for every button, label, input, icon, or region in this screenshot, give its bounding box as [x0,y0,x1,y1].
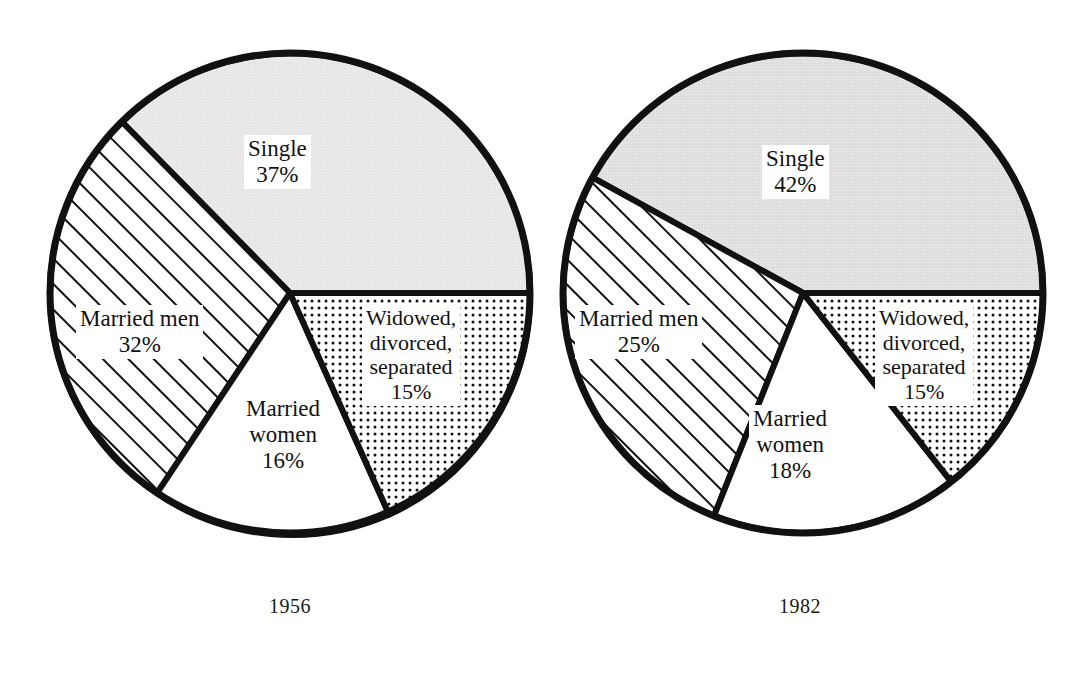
label-widowed-l1-1956: Widowed, [366,306,456,331]
label-married-women-l2-1956: women [246,422,320,448]
label-married-women-value-1982: 18% [753,458,827,484]
label-widowed-1956: Widowed, divorced, separated 15% [362,305,460,406]
label-widowed-l3-1956: separated [366,355,456,380]
label-single-1956: Single 37% [244,135,311,189]
label-married-men-1982: Married men 25% [575,305,702,359]
caption-1982: 1982 [710,595,890,618]
label-married-women-1956: Married women 16% [242,395,324,474]
label-married-women-l1-1956: Married [246,396,320,422]
label-widowed-value-1956: 15% [366,380,456,405]
label-single-value-1982: 42% [766,172,825,198]
label-married-men-value-1956: 32% [80,332,199,358]
label-single-1982: Single 42% [762,145,829,199]
label-married-women-l1-1982: Married [753,406,827,432]
label-widowed-l2-1982: divorced, [879,331,969,356]
pie-chart-1982: Single 42% Married men 25% Married women… [557,47,1049,539]
label-single-value-1956: 37% [248,162,307,188]
label-married-women-value-1956: 16% [246,448,320,474]
label-widowed-l3-1982: separated [879,355,969,380]
label-single-text-1982: Single [766,146,825,172]
label-widowed-value-1982: 15% [879,380,969,405]
label-married-women-1982: Married women 18% [749,405,831,484]
label-widowed-l1-1982: Widowed, [879,306,969,331]
figure-root: Single 37% Married men 32% Married women… [0,0,1069,675]
label-widowed-l2-1956: divorced, [366,331,456,356]
label-married-men-1956: Married men 32% [76,305,203,359]
label-married-women-l2-1982: women [753,432,827,458]
caption-1956: 1956 [200,595,380,618]
label-widowed-1982: Widowed, divorced, separated 15% [875,305,973,406]
label-married-men-text-1982: Married men [579,306,698,332]
label-single-text-1956: Single [248,136,307,162]
pie-chart-1956: Single 37% Married men 32% Married women… [44,47,536,539]
label-married-men-text-1956: Married men [80,306,199,332]
label-married-men-value-1982: 25% [579,332,698,358]
